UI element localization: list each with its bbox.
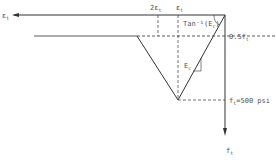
ec-label: Ec — [184, 62, 191, 71]
half-ft-label: 0.5ft — [229, 33, 249, 42]
stress-axis-arrowhead — [223, 128, 227, 136]
two-eps-label: 2εt — [150, 4, 161, 13]
ft-value-label: ft=500 psi — [229, 97, 270, 106]
tan-label: Tan⁻¹(Ec) — [183, 20, 220, 29]
v-axis-label: ft — [226, 147, 233, 156]
h-axis-label: εt — [2, 12, 9, 21]
tension-diagram: εt 2εt εt Tan⁻¹(Ec) 0.5ft Ec ft=500 psi … — [0, 0, 276, 164]
strain-axis-arrowhead — [12, 13, 19, 17]
eps-label: εt — [176, 4, 183, 13]
